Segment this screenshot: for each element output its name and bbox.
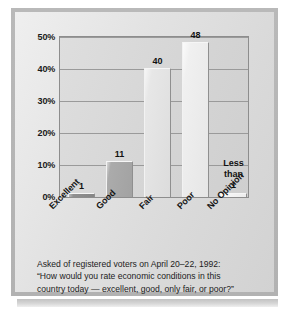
caption-line-2: “How would you rate economic conditions …: [37, 270, 262, 282]
bar-poor[interactable]: [182, 42, 209, 197]
caption-line-3: country today — excellent, good, only fa…: [37, 283, 262, 295]
y-tick-10: 10%: [38, 160, 55, 170]
bar-slot-good: 11: [106, 37, 133, 197]
bar-fair[interactable]: [144, 68, 171, 197]
bar-value-poor: 48: [190, 30, 200, 41]
bar-excellent[interactable]: [68, 193, 95, 197]
bar-value-good: 11: [115, 149, 125, 160]
figure-panel: 50% 40% 30% 20% 10% 0% 1: [15, 12, 274, 292]
chart-figure: 50% 40% 30% 20% 10% 0% 1: [0, 0, 289, 314]
plot-wrapper: 50% 40% 30% 20% 10% 0% 1: [15, 12, 274, 292]
plot-area: 50% 40% 30% 20% 10% 0% 1: [59, 36, 249, 198]
bar-slot-excellent: 1: [68, 37, 95, 197]
bar-series: 1 11 40: [60, 37, 248, 197]
caption-line-1: Asked of registered voters on April 20–2…: [37, 258, 262, 270]
no-opinion-label-line1: Less: [223, 158, 244, 169]
figure-drop-shadow: [17, 299, 278, 307]
bar-slot-fair: 40: [144, 37, 171, 197]
bar-slot-poor: 48: [182, 37, 209, 197]
bar-slot-no-opinion: Less than 1: [220, 37, 247, 197]
y-tick-50: 50%: [38, 32, 55, 42]
y-tick-40: 40%: [38, 64, 55, 74]
bar-value-fair: 40: [152, 56, 162, 67]
figure-frame: 50% 40% 30% 20% 10% 0% 1: [11, 8, 278, 296]
y-tick-30: 30%: [38, 96, 55, 106]
y-tick-20: 20%: [38, 128, 55, 138]
figure-caption: Asked of registered voters on April 20–2…: [37, 258, 262, 295]
